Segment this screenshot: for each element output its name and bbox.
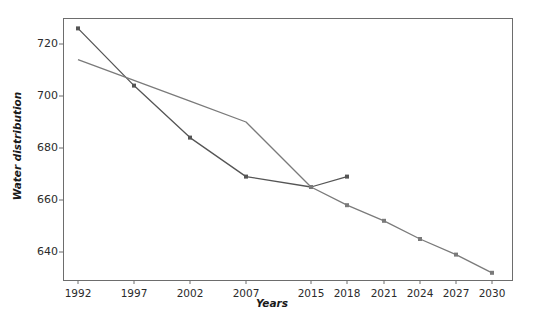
plot-area-frame [63,18,513,281]
y-axis-title: Water distribution [11,86,23,206]
chart-container: 720700680660640 199219972002200720152018… [0,0,544,320]
x-axis-title: Years [0,297,544,309]
y-tick-label: 720 [14,37,58,50]
x-axis-tick-marks [78,281,492,284]
y-tick-label: 640 [14,245,58,258]
